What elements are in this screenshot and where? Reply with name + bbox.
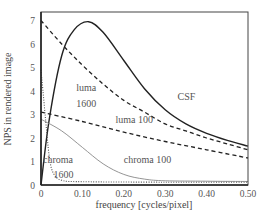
annotation-label: 1600 [76,98,96,109]
series-chroma-1600 [41,70,248,182]
series-luma-1600 [41,21,248,150]
y-axis-label: NPS in rendered image [2,52,13,146]
y-tick-label: 0 [30,181,35,191]
x-tick-label: 0.30 [157,189,174,199]
y-tick-label: 4 [30,87,35,97]
x-tick-label: 0.20 [115,189,132,199]
y-tick-label: 5 [30,63,35,73]
annotation-label: CSF [178,91,196,102]
annotation-label: luma [76,82,97,93]
y-tick-label: 3 [30,110,35,120]
y-tick-label: 2 [30,134,35,144]
y-tick-label: 6 [30,40,35,50]
annotation-label: chroma [43,154,74,165]
y-tick-labels: 01234567 [30,16,35,191]
annotation-label: chroma 100 [124,154,172,165]
x-axis-label: frequency [cycles/pixel] [96,199,193,210]
annotation-label: luma 100 [116,114,153,125]
x-tick-label: 0.10 [74,189,91,199]
x-tick-label: 0.40 [198,189,215,199]
y-tick-label: 7 [30,16,35,26]
x-tick-label: 0 [39,189,44,199]
x-tick-labels: 00.100.200.300.400.50 [39,189,257,199]
annotation-label: 1600 [53,169,73,180]
nps-chart: 01234567 00.100.200.300.400.50 CSFluma16… [0,0,264,214]
x-tick-label: 0.50 [240,189,257,199]
y-tick-label: 1 [30,157,35,167]
